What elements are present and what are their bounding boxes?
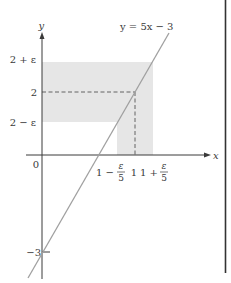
x-tick-upper-frac-num: ε [162,161,167,171]
y-tick-upper: 2 + ε [10,54,36,65]
y-tick-lower: 2 − ε [10,117,36,128]
y-tick-intercept: −3 [26,247,41,258]
x-tick-upper-prefix: 1 + [140,167,158,178]
x-axis-label: x [213,150,219,161]
x-tick-lower-frac-den: 5 [118,173,124,183]
equation-label: y = 5x − 3 [119,21,174,32]
y-axis-label: y [38,20,45,31]
x-tick-upper-frac-den: 5 [161,173,167,183]
x-tick-lower-prefix: 1 − [96,167,114,178]
diagram-canvas: y x y = 5x − 3 2 + ε 2 2 − ε −3 0 1 − ε … [0,0,231,283]
y-axis-arrow-icon [40,32,45,39]
x-tick-center: 1 [131,167,137,178]
y-tick-center: 2 [31,87,37,98]
origin-label: 0 [33,159,39,170]
x-tick-lower-frac-num: ε [119,161,124,171]
x-axis-arrow-icon [204,153,211,158]
